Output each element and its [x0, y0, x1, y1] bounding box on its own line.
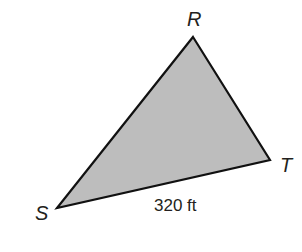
triangle-diagram: R T S 320 ft — [0, 0, 302, 252]
triangle-RST — [57, 37, 270, 208]
vertex-label-T: T — [280, 154, 294, 176]
vertex-label-S: S — [35, 202, 49, 224]
triangle-svg: R T S 320 ft — [0, 0, 302, 252]
side-length-label-ST: 320 ft — [154, 196, 197, 215]
vertex-label-R: R — [187, 8, 201, 30]
